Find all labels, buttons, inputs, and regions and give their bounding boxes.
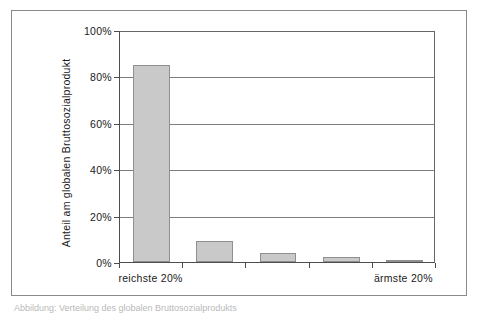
- y-tick-mark: [114, 217, 120, 218]
- y-tick-mark: [114, 31, 120, 32]
- y-tick-mark: [114, 77, 120, 78]
- bar: [196, 241, 233, 262]
- y-tick-mark: [114, 170, 120, 171]
- x-tick-mark: [182, 263, 183, 268]
- x-tick-label: ärmste 20%: [374, 272, 433, 284]
- x-tick-mark: [245, 263, 246, 268]
- bar: [386, 260, 423, 262]
- bars-layer: [120, 32, 434, 262]
- bar: [323, 257, 360, 262]
- figure-caption: Abbildung: Verteilung des globalen Brutt…: [14, 303, 237, 313]
- y-axis-title: Anteil am globalen Bruttosozialprodukt: [60, 37, 72, 269]
- bar-chart: 0%20%40%60%80%100% Anteil am globalen Br…: [12, 11, 466, 295]
- plot-area: [119, 31, 435, 263]
- x-tick-mark: [435, 263, 436, 268]
- x-tick-mark: [119, 263, 120, 268]
- figure-frame: 0%20%40%60%80%100% Anteil am globalen Br…: [11, 10, 467, 296]
- x-tick-mark: [309, 263, 310, 268]
- x-tick-mark: [372, 263, 373, 268]
- x-tick-label: reichste 20%: [118, 272, 182, 284]
- bar: [260, 253, 297, 262]
- bar: [133, 65, 170, 262]
- y-tick-label: 100%: [62, 26, 112, 36]
- y-tick-mark: [114, 124, 120, 125]
